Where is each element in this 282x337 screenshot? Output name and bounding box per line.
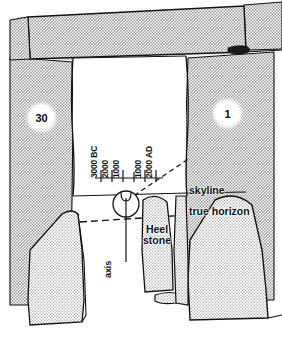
stone-number-30: 30 [30,106,53,129]
tick-label-3000-bc: 3000 BC [89,146,99,178]
tick-label-2000-bc: 2000 [100,160,110,178]
tick-label-1000-ad: 1000 [133,160,143,178]
foreground-stone-middle [174,196,188,305]
true-horizon-line [80,215,188,222]
stone-number-1: 1 [216,102,239,125]
heel-stone-label-line2: stone [143,235,171,246]
true-horizon-label: true horizon [189,206,250,217]
lintel-stone [10,2,282,60]
skyline-label: skyline [189,185,225,196]
tick-label-2000-ad: 2000 AD [144,146,154,178]
axis-label: axis [103,261,113,278]
tick-label-1000-bc: 1000 [111,160,121,178]
stonehenge-diagram: 30 1 3000 BC 2000 1000 1000 2000 AD skyl… [0,0,282,337]
heel-stone-label: Heel stone [143,224,171,246]
